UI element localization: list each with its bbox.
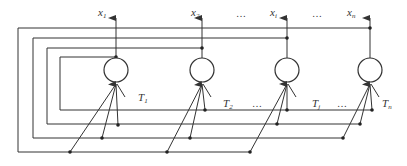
output-ellipsis-2: … bbox=[312, 9, 322, 19]
neuron-i-inputs bbox=[248, 84, 296, 154]
threshold-label-tn: Tn bbox=[382, 98, 392, 111]
threshold-label-t1: T1 bbox=[138, 92, 148, 105]
output-label-x2: x2 bbox=[191, 7, 199, 20]
output-label-xi: xi bbox=[270, 7, 277, 20]
threshold-ellipsis-1: … bbox=[252, 99, 262, 109]
neuron-i bbox=[275, 58, 299, 82]
feedback-top-lines bbox=[18, 28, 370, 57]
neuron-n bbox=[358, 58, 382, 82]
neurons bbox=[104, 58, 382, 82]
feedback-tap-dots bbox=[114, 26, 372, 59]
threshold-ellipsis-2: … bbox=[337, 99, 347, 109]
neuron-2 bbox=[190, 58, 214, 82]
neuron-1 bbox=[104, 58, 128, 82]
output-ellipsis-1: … bbox=[236, 9, 246, 19]
output-label-x1: x1 bbox=[98, 7, 106, 20]
neuron-2-inputs bbox=[165, 84, 211, 154]
neuron-n-inputs bbox=[341, 84, 379, 140]
threshold-label-t2: T2 bbox=[223, 98, 233, 111]
threshold-label-tj: Tj bbox=[312, 98, 320, 111]
feedback-left-lines bbox=[18, 28, 60, 152]
network-wiring bbox=[0, 0, 407, 166]
neuron-1-inputs bbox=[68, 84, 125, 154]
output-label-xn: xn bbox=[347, 7, 355, 20]
